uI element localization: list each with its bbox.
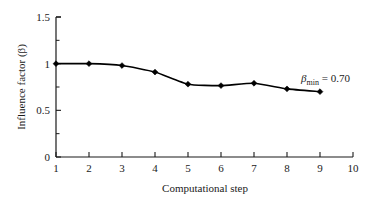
- x-tick-label-0: 1: [53, 162, 59, 174]
- x-tick-label-7: 8: [284, 162, 290, 174]
- x-tick-label-3: 4: [152, 162, 158, 174]
- x-tick-label-5: 6: [218, 162, 224, 174]
- x-tick-label-4: 5: [185, 162, 191, 174]
- beta-value: = 0.70: [319, 72, 350, 84]
- x-tick-label-6: 7: [251, 162, 257, 174]
- x-tick-label-8: 9: [317, 162, 323, 174]
- beta-subscript: min: [306, 78, 318, 87]
- x-axis-title: Computational step: [162, 182, 248, 194]
- y-tick-label-2: 1: [45, 58, 51, 70]
- y-axis-title: Influence factor (β): [15, 44, 28, 130]
- x-tick-label-1: 2: [86, 162, 92, 174]
- y-tick-label-3: 1.5: [36, 11, 50, 23]
- x-tick-label-9: 10: [348, 162, 360, 174]
- chart-figure: 00.511.5 12345678910 Computational step …: [0, 0, 383, 203]
- y-tick-label-0: 0: [45, 151, 51, 163]
- line-chart: 00.511.5 12345678910 Computational step …: [0, 0, 383, 203]
- x-tick-label-2: 3: [119, 162, 125, 174]
- y-tick-label-1: 0.5: [36, 104, 50, 116]
